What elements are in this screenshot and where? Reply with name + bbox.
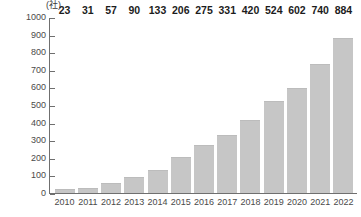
y-axis-tick-label: 200 [31, 153, 46, 164]
plot-area: 10009008007006005004003002001000 2331579… [49, 18, 357, 194]
bar-value-label: 90 [128, 4, 140, 16]
bar-2020: 602 [287, 88, 307, 193]
y-axis-tick-label: 800 [31, 47, 46, 58]
bars-layer: 23315790133206275331420524602740884 [50, 18, 357, 193]
bar-group: 524 [262, 18, 285, 193]
bar-value-label: 884 [335, 4, 353, 16]
bar-value-label: 331 [218, 4, 236, 16]
y-axis-tick-label: 300 [31, 135, 46, 146]
bar-2015: 206 [171, 157, 191, 193]
bar-2017: 331 [217, 135, 237, 193]
bar-value-label: 602 [288, 4, 306, 16]
bar-2014: 133 [148, 170, 168, 193]
y-axis-tick-label: 1000 [26, 12, 46, 23]
x-axis-label-2018: 2018 [239, 196, 262, 208]
bar-2011: 31 [78, 188, 98, 193]
y-axis-tick-mark [50, 194, 55, 195]
x-axis-label-2017: 2017 [216, 196, 239, 208]
y-axis-tick-label: 600 [31, 82, 46, 93]
x-axis-label-2015: 2015 [169, 196, 192, 208]
bar-group: 884 [332, 18, 355, 193]
x-axis-label-2011: 2011 [76, 196, 99, 208]
bar-group: 133 [146, 18, 169, 193]
x-axis-label-2022: 2022 [332, 196, 355, 208]
bar-2018: 420 [240, 120, 260, 194]
bar-group: 31 [76, 18, 99, 193]
bar-group: 740 [309, 18, 332, 193]
x-axis-label-2010: 2010 [53, 196, 76, 208]
x-axis-label-2013: 2013 [123, 196, 146, 208]
bar-value-label: 206 [172, 4, 190, 16]
x-axis-baseline [49, 193, 357, 194]
x-axis-label-2014: 2014 [146, 196, 169, 208]
bar-group: 602 [285, 18, 308, 193]
bar-group: 206 [169, 18, 192, 193]
bar-2022: 884 [333, 38, 353, 193]
bar-chart: (社) 10009008007006005004003002001000 233… [0, 0, 361, 217]
bar-group: 57 [99, 18, 122, 193]
bar-group: 23 [53, 18, 76, 193]
x-axis-label-2021: 2021 [309, 196, 332, 208]
x-axis-label-2020: 2020 [285, 196, 308, 208]
bar-2012: 57 [101, 183, 121, 193]
bar-2019: 524 [264, 101, 284, 193]
bar-group: 420 [239, 18, 262, 193]
x-axis-label-2012: 2012 [99, 196, 122, 208]
bar-2013: 90 [124, 177, 144, 193]
y-axis-tick-label: 700 [31, 65, 46, 76]
y-axis-tick: 0 [49, 194, 55, 195]
bar-value-label: 57 [105, 4, 117, 16]
y-axis-tick-label: 500 [31, 100, 46, 111]
x-axis-label-2019: 2019 [262, 196, 285, 208]
y-axis-tick-label: 400 [31, 118, 46, 129]
bar-value-label: 275 [195, 4, 213, 16]
bar-2021: 740 [310, 64, 330, 194]
bar-value-label: 420 [242, 4, 260, 16]
x-axis-labels: 2010201120122013201420152016201720182019… [50, 196, 357, 208]
bar-2016: 275 [194, 145, 214, 193]
bar-value-label: 133 [149, 4, 167, 16]
bar-group: 331 [216, 18, 239, 193]
bar-group: 90 [123, 18, 146, 193]
y-axis-tick-label: 100 [31, 170, 46, 181]
bar-2010: 23 [55, 189, 75, 193]
bar-value-label: 740 [311, 4, 329, 16]
y-axis-tick-label: 900 [31, 30, 46, 41]
bar-group: 275 [192, 18, 215, 193]
bar-value-label: 31 [82, 4, 94, 16]
bar-value-label: 524 [265, 4, 283, 16]
y-axis-tick-label: 0 [41, 188, 46, 199]
bar-value-label: 23 [59, 4, 71, 16]
x-axis-label-2016: 2016 [192, 196, 215, 208]
